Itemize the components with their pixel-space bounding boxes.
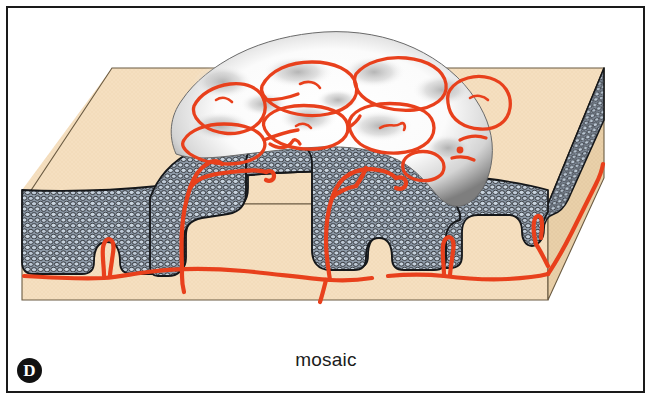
figure-root: D mosaic <box>0 0 652 407</box>
figure-caption: mosaic <box>0 349 652 371</box>
mosaic-vessel-dot <box>457 147 464 154</box>
tissue-block-illustration <box>8 8 643 391</box>
left-capillary-down <box>182 276 184 292</box>
